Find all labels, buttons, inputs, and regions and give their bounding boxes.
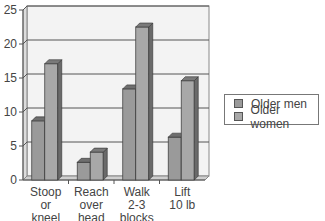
bar-older-women [181,81,194,180]
x-category-label: Lift [174,185,191,199]
x-category-label: blocks [120,211,154,221]
y-tick-label: 0 [10,173,17,187]
y-tick-label: 15 [4,71,18,85]
x-category-label: 2-3 [128,198,146,212]
legend-swatch-older-women [234,112,243,121]
x-category-label: Reach [74,185,109,199]
x-category-label: Stoop [30,185,62,199]
y-tick-label: 5 [10,139,17,153]
bar-side [58,60,62,180]
x-category-label: kneel [31,211,60,221]
x-category-label: 10 lb [169,198,195,212]
x-category-label: head [78,211,105,221]
y-tick-label: 10 [4,105,18,119]
x-category-label: Walk [124,185,151,199]
legend-swatch-older-men [234,99,243,108]
chart-legend: Older men Older women [224,94,319,125]
bar-older-women [45,64,58,180]
y-tick-label: 25 [4,3,18,17]
bar-older-men [77,162,90,180]
legend-item-older-women: Older women [234,110,318,123]
bar-older-men [123,89,136,180]
bar-side [194,77,198,180]
bar-older-men [168,137,181,180]
bar-older-men [32,121,45,180]
bar-side [149,23,153,180]
bar-older-women [90,152,103,180]
legend-label: Older women [251,103,318,131]
y-tick-label: 20 [4,37,18,51]
x-category-label: over [80,198,103,212]
bar-older-women [136,27,149,180]
bar-side [103,148,107,180]
plot-side-wall [23,6,27,180]
x-category-label: or [40,198,51,212]
